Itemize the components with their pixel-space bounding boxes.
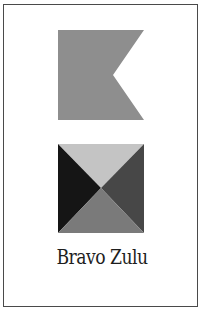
bravo-flag-icon bbox=[58, 30, 144, 120]
caption-text: Bravo Zulu bbox=[14, 244, 189, 270]
zulu-flag-icon bbox=[58, 144, 144, 233]
bravo-flag-shape bbox=[58, 30, 144, 120]
